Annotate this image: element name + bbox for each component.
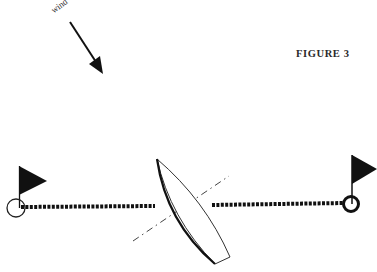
race-course-diagram bbox=[0, 0, 377, 272]
wind-arrow-icon bbox=[70, 22, 103, 74]
boat-hull-icon bbox=[157, 159, 230, 264]
left-mark-flag-icon bbox=[7, 166, 47, 217]
right-mark-flag-icon bbox=[344, 155, 377, 212]
